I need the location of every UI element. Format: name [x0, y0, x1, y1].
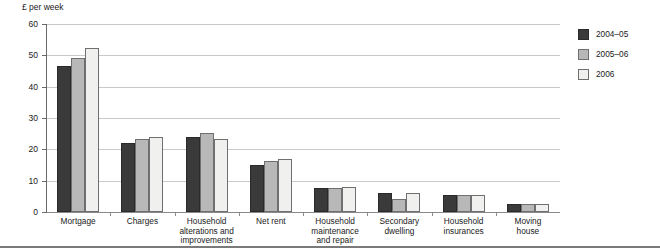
- bar-group: [367, 24, 431, 212]
- category-separator: [175, 212, 176, 216]
- y-tick-mark: [42, 212, 46, 213]
- bar: [214, 139, 228, 212]
- bar: [378, 193, 392, 212]
- y-tick-label: 0: [16, 208, 38, 217]
- bar: [507, 204, 521, 212]
- x-label-line: and repair: [297, 236, 373, 246]
- bar-group: [432, 24, 496, 212]
- x-axis-labels: MortgageChargesHouseholdalterations andi…: [46, 217, 560, 249]
- bar-chart: £ per week 0102030405060 MortgageCharges…: [0, 0, 660, 249]
- bar: [200, 133, 214, 212]
- bar: [186, 137, 200, 212]
- y-tick-label: 50: [16, 51, 38, 60]
- legend-swatch: [578, 49, 589, 60]
- bar: [57, 66, 71, 212]
- bar-group: [175, 24, 239, 212]
- legend-item: 2004–05: [578, 26, 658, 42]
- x-label-line: house: [490, 227, 566, 237]
- bar: [406, 193, 420, 212]
- legend-label: 2006: [596, 70, 614, 79]
- bar: [121, 143, 135, 212]
- y-tick-label: 40: [16, 83, 38, 92]
- bar: [71, 58, 85, 212]
- legend-swatch: [578, 69, 589, 80]
- bar-group: [46, 24, 110, 212]
- legend-swatch: [578, 29, 589, 40]
- bar-group: [239, 24, 303, 212]
- legend-item: 2005–06: [578, 46, 658, 62]
- bar: [328, 188, 342, 212]
- category-separator: [303, 212, 304, 216]
- y-tick-label: 30: [16, 114, 38, 123]
- bar-groups: [46, 24, 560, 212]
- category-separator: [432, 212, 433, 216]
- bar: [521, 204, 535, 212]
- bar: [471, 195, 485, 212]
- bar-group: [496, 24, 560, 212]
- y-tick-label: 60: [16, 20, 38, 29]
- bar: [85, 48, 99, 212]
- bottom-rule: [0, 246, 660, 248]
- x-axis-label: Movinghouse: [490, 217, 566, 236]
- y-tick-label: 10: [16, 177, 38, 186]
- bar: [278, 159, 292, 212]
- legend-label: 2005–06: [596, 50, 628, 59]
- bar: [135, 139, 149, 212]
- bar: [342, 187, 356, 212]
- bar: [443, 195, 457, 212]
- y-tick-label: 20: [16, 145, 38, 154]
- legend-item: 2006: [578, 66, 658, 82]
- x-label-line: improvements: [169, 236, 245, 246]
- bar: [392, 199, 406, 212]
- bar-group: [303, 24, 367, 212]
- category-separator: [239, 212, 240, 216]
- bar: [250, 165, 264, 212]
- bar: [149, 137, 163, 213]
- legend-label: 2004–05: [596, 30, 628, 39]
- bar: [264, 161, 278, 212]
- bar: [314, 188, 328, 212]
- category-separator: [110, 212, 111, 216]
- bar: [535, 204, 549, 212]
- bar: [457, 195, 471, 212]
- category-separator: [496, 212, 497, 216]
- y-axis-title: £ per week: [22, 2, 64, 12]
- category-separator: [367, 212, 368, 216]
- bar-group: [110, 24, 174, 212]
- chart-legend: 2004–052005–062006: [578, 26, 658, 86]
